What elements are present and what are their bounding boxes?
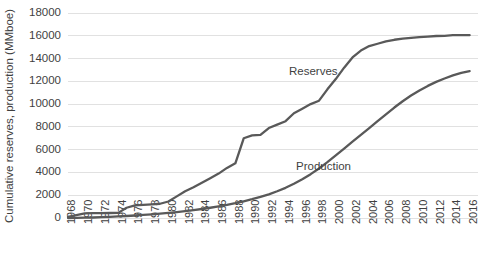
x-tick-label: 1986 [216, 200, 228, 224]
y-tick-label: 8000 [35, 120, 61, 132]
series-line-reserves [68, 35, 470, 217]
x-tick-label: 1984 [199, 200, 211, 224]
y-axis-title-text: Cumulative reserves, production (MMboe) [3, 9, 15, 223]
x-tick-label: 2014 [450, 200, 462, 224]
x-tick-label: 1992 [266, 200, 278, 224]
line-chart: 0200040006000800010000120001400016000180… [0, 0, 484, 263]
y-tick-label: 4000 [35, 165, 61, 177]
x-tick-label: 2006 [383, 200, 395, 224]
x-tick-label: 1996 [300, 200, 312, 224]
x-tick-label: 1968 [65, 200, 77, 224]
y-tick-label: 10000 [29, 97, 61, 109]
x-tick-label: 1994 [283, 200, 295, 224]
y-tick-label: 16000 [29, 29, 61, 41]
gridlines [68, 13, 478, 218]
x-tick-label: 2012 [434, 200, 446, 224]
y-tick-label: 14000 [29, 52, 61, 64]
x-tick-label: 2004 [367, 200, 379, 224]
x-tick-label: 2000 [333, 200, 345, 224]
y-tick-label: 12000 [29, 74, 61, 86]
x-tick-label: 1998 [316, 200, 328, 224]
y-axis-tick-labels: 0200040006000800010000120001400016000180… [29, 6, 61, 223]
chart-container: 0200040006000800010000120001400016000180… [0, 0, 484, 263]
x-tick-label: 2008 [400, 200, 412, 224]
reserves-label: Reserves [289, 65, 338, 77]
x-tick-label: 1990 [249, 200, 261, 224]
y-axis-title: Cumulative reserves, production (MMboe) [3, 9, 15, 223]
y-tick-label: 6000 [35, 143, 61, 155]
x-tick-label: 1976 [132, 200, 144, 224]
x-tick-label: 1970 [82, 200, 94, 224]
x-tick-label: 2002 [350, 200, 362, 224]
x-tick-label: 2010 [417, 200, 429, 224]
production-label: Production [296, 160, 351, 172]
y-tick-label: 0 [55, 211, 61, 223]
x-tick-label: 1972 [99, 200, 111, 224]
series-line-production [68, 71, 470, 218]
x-axis-tick-labels: 1968197019721974197619781980198219841986… [65, 200, 479, 224]
x-tick-label: 2016 [467, 200, 479, 224]
y-tick-label: 2000 [35, 188, 61, 200]
y-tick-label: 18000 [29, 6, 61, 18]
